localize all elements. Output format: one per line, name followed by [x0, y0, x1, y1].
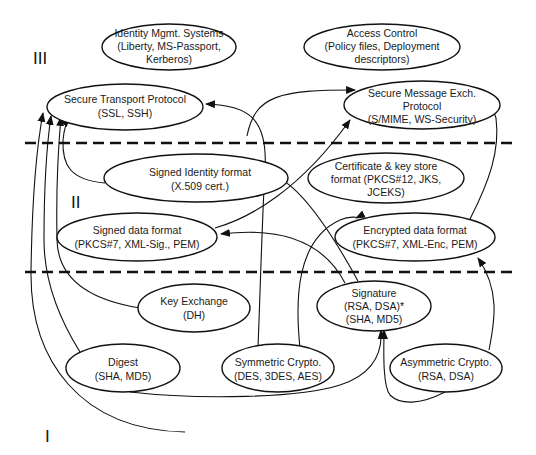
node-signed-data-line2: (PKCS#7, XML-Sig., PEM) — [75, 238, 200, 250]
node-secure-message-line3: (S/MIME, WS-Security) — [368, 113, 477, 125]
node-secure-transport-line1: Secure Transport Protocol — [64, 93, 186, 105]
node-symmetric-line1: Symmetric Crypto. — [235, 356, 321, 368]
node-access-control-line1: Access Control — [347, 27, 418, 39]
node-cert-keystore-line1: Certificate & key store — [335, 160, 438, 172]
node-identity-mgmt-line3: Kerberos) — [146, 53, 192, 65]
node-key-exchange-line2: (DH) — [183, 309, 205, 321]
node-digest-line1: Digest — [108, 356, 138, 368]
node-encrypted-data-line2: (PKCS#7, XML-Enc, PEM) — [353, 238, 478, 250]
node-encrypted-data: Encrypted data format (PKCS#7, XML-Enc, … — [335, 213, 495, 261]
node-encrypted-data-line1: Encrypted data format — [363, 224, 466, 236]
edge-signedidentity-to-message — [247, 90, 355, 136]
node-secure-transport: Secure Transport Protocol (SSL, SSH) — [47, 84, 203, 130]
node-secure-message: Secure Message Exch. Protocol (S/MIME, W… — [344, 81, 500, 129]
node-symmetric: Symmetric Crypto. (DES, 3DES, AES) — [222, 344, 334, 392]
node-cert-keystore-line2: format (PKCS#12, JKS, — [331, 173, 441, 185]
node-signature-line2: (RSA, DSA)* — [344, 300, 404, 312]
node-access-control-line2: (Policy files, Deployment — [325, 40, 440, 52]
node-identity-mgmt-line2: (Liberty, MS-Passport, — [117, 40, 221, 52]
edge-signature-to-signeddata — [221, 232, 345, 283]
node-signature-line1: Signature — [352, 287, 397, 299]
node-asymmetric: Asymmetric Crypto. (RSA, DSA) — [390, 344, 502, 392]
node-symmetric-line2: (DES, 3DES, AES) — [234, 370, 322, 382]
node-signed-identity-line2: (X.509 cert.) — [171, 180, 229, 192]
node-secure-message-line2: Protocol — [403, 100, 442, 112]
node-asymmetric-line1: Asymmetric Crypto. — [400, 356, 492, 368]
node-signed-identity-line1: Signed Identity format — [149, 166, 251, 178]
node-signed-data: Signed data format (PKCS#7, XML-Sig., PE… — [57, 213, 217, 261]
node-secure-message-line1: Secure Message Exch. — [368, 87, 476, 99]
node-asymmetric-line2: (RSA, DSA) — [418, 370, 474, 382]
node-cert-keystore: Certificate & key store format (PKCS#12,… — [308, 153, 464, 203]
node-access-control: Access Control (Policy files, Deployment… — [304, 24, 460, 70]
layer-label-iii: III — [33, 49, 47, 68]
layer-label-i: I — [45, 427, 50, 446]
node-identity-mgmt: Identity Mgmt. Systems (Liberty, MS-Pass… — [102, 24, 236, 70]
node-signed-data-line1: Signed data format — [93, 224, 182, 236]
node-digest-line2: (SHA, MD5) — [95, 370, 152, 382]
node-digest: Digest (SHA, MD5) — [66, 344, 180, 392]
node-access-control-line3: descriptors) — [355, 53, 410, 65]
diagram-canvas: III II I Identity Mgmt. Systems (Liberty… — [0, 0, 536, 455]
node-signature-line3: (SHA, MD5) — [346, 313, 403, 325]
node-signed-identity: Signed Identity format (X.509 cert.) — [104, 154, 288, 202]
diagram-svg: III II I Identity Mgmt. Systems (Liberty… — [0, 0, 536, 455]
layer-label-ii: II — [71, 193, 80, 212]
node-cert-keystore-line3: JCEKS) — [367, 186, 404, 198]
node-identity-mgmt-line1: Identity Mgmt. Systems — [114, 27, 223, 39]
node-key-exchange-line1: Key Exchange — [160, 295, 228, 307]
node-key-exchange: Key Exchange (DH) — [138, 284, 250, 332]
node-secure-transport-line2: (SSL, SSH) — [98, 107, 152, 119]
node-signature: Signature (RSA, DSA)* (SHA, MD5) — [317, 281, 431, 331]
